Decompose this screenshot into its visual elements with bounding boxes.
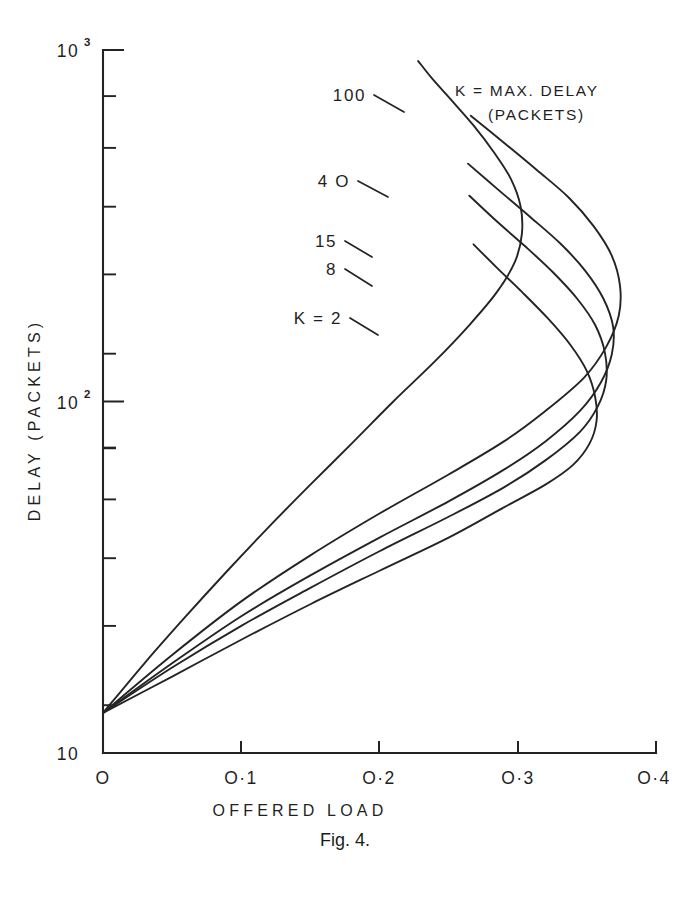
x-tick-group	[103, 741, 656, 753]
curve-label-8: 8	[326, 260, 337, 279]
curve-k-8	[103, 196, 607, 713]
x-tick-label-0: O	[95, 768, 110, 788]
leader-40	[358, 181, 388, 197]
curve-label-group: 100 4 O 15 8 K = 2	[294, 86, 366, 328]
x-axis-title: OFFERED LOAD	[213, 802, 388, 819]
axis-group	[103, 50, 656, 753]
leader-line-group	[345, 95, 404, 335]
chart-svg: 10 3 10 2 10 O O·1 O·2 O·3 O·4 DELAY (PA…	[0, 0, 690, 898]
curve-k-2	[103, 244, 597, 713]
curve-label-100: 100	[333, 86, 366, 105]
figure-container: 10 3 10 2 10 O O·1 O·2 O·3 O·4 DELAY (PA…	[0, 0, 690, 898]
leader-k2	[350, 318, 378, 335]
leader-15	[345, 241, 372, 257]
figure-caption: Fig. 4.	[0, 830, 690, 851]
x-tick-label-0p1: O·1	[224, 768, 257, 788]
y-tick-label-100-exponent: 2	[84, 388, 90, 400]
y-tick-label-100-base: 10	[57, 393, 79, 413]
x-tick-label-0p4: O·4	[637, 768, 670, 788]
curve-k-15	[103, 164, 614, 713]
y-axis-title: DELAY (PACKETS)	[26, 319, 43, 522]
x-tick-labels: O O·1 O·2 O·3 O·4	[95, 768, 670, 788]
y-tick-label-10: 10	[57, 744, 79, 764]
legend-annotation: K = MAX. DELAY (PACKETS)	[455, 82, 599, 123]
legend-line-1: K = MAX. DELAY	[455, 82, 599, 99]
y-tick-labels: 10 3 10 2 10	[57, 36, 91, 764]
curve-label-k2: K = 2	[294, 309, 342, 328]
curve-label-40: 4 O	[318, 172, 350, 191]
x-tick-label-0p3: O·3	[501, 768, 534, 788]
y-tick-label-1000-exponent: 3	[84, 36, 90, 48]
y-tick-group	[103, 50, 124, 753]
leader-100	[374, 95, 404, 112]
curve-k-100	[103, 61, 522, 713]
y-tick-label-1000-base: 10	[57, 41, 79, 61]
leader-8	[345, 269, 372, 286]
x-tick-label-0p2: O·2	[362, 768, 395, 788]
curve-label-15: 15	[315, 232, 337, 251]
curve-layer	[103, 61, 621, 713]
legend-line-2: (PACKETS)	[488, 106, 585, 123]
